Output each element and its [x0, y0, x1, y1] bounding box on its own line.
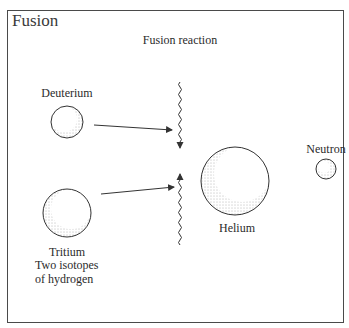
- deuterium-arrow: [94, 125, 172, 130]
- helium-particle: [201, 146, 270, 215]
- wavy-arrow-down: [179, 82, 182, 148]
- neutron-particle: [316, 159, 336, 179]
- tritium-particle: [43, 189, 91, 237]
- fusion-diagram: [0, 0, 349, 328]
- wavy-arrow-up: [179, 174, 182, 245]
- tritium-arrow: [101, 187, 174, 194]
- deuterium-particle: [51, 106, 83, 138]
